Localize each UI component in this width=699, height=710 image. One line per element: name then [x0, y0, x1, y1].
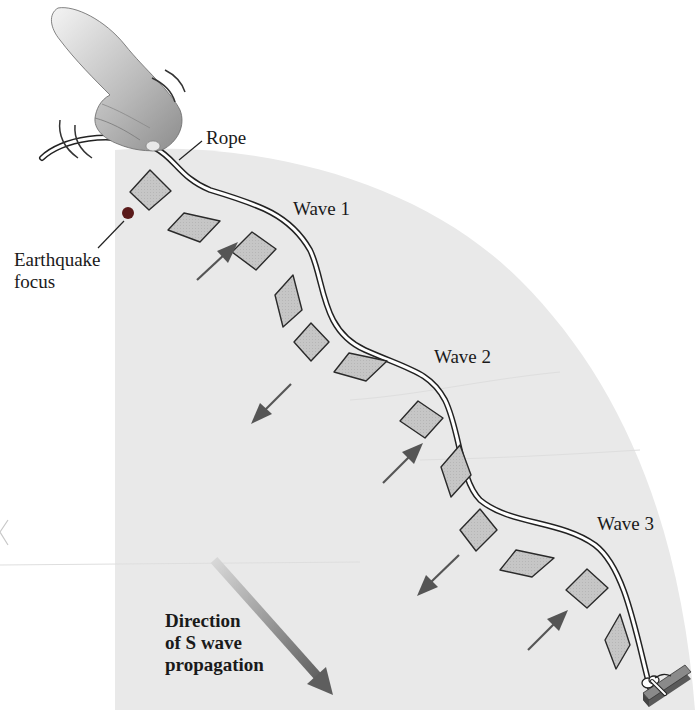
rope-label: Rope: [206, 127, 246, 149]
wave-1-label: Wave 1: [293, 198, 350, 220]
earthquake-focus-label-line1: Earthquake: [14, 249, 101, 271]
propagation-label-line2: of S wave: [165, 632, 264, 654]
s-wave-diagram: Rope Wave 1 Wave 2 Wave 3 Earthquake foc…: [0, 0, 699, 710]
earthquake-focus-dot: [122, 207, 134, 219]
earthquake-focus-label: Earthquake focus: [14, 249, 101, 293]
hand-icon: [51, 8, 185, 158]
propagation-label-line3: propagation: [165, 654, 264, 676]
propagation-direction-label: Direction of S wave propagation: [165, 610, 264, 676]
margin-mark: [0, 520, 8, 545]
earthquake-focus-label-line2: focus: [14, 271, 101, 293]
wave-3-label: Wave 3: [597, 513, 654, 535]
wave-2-label: Wave 2: [434, 346, 491, 368]
diagram-canvas: [0, 0, 699, 710]
propagation-label-line1: Direction: [165, 610, 264, 632]
